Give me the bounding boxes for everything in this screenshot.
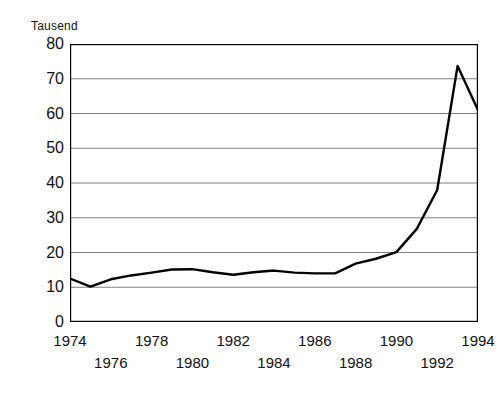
x-tick-label: 1988: [339, 354, 372, 371]
x-tick-label: 1980: [176, 354, 209, 371]
line-chart-svg: [70, 44, 478, 322]
y-tick-label: 40: [24, 175, 64, 191]
y-tick-label: 80: [24, 36, 64, 52]
chart-figure: Tausend 80706050403020100 19741978198219…: [0, 0, 504, 397]
y-tick-label: 50: [24, 140, 64, 156]
y-tick-label: 30: [24, 210, 64, 226]
y-axis-tick-labels: 80706050403020100: [18, 44, 64, 322]
x-tick-label: 1976: [94, 354, 127, 371]
x-tick-label: 1994: [461, 332, 494, 349]
x-tick-label: 1984: [257, 354, 290, 371]
y-tick-label: 20: [24, 245, 64, 261]
y-tick-label: 0: [24, 314, 64, 330]
unit-label: Tausend: [31, 19, 78, 33]
x-tick-label: 1986: [298, 332, 331, 349]
gridlines: [70, 79, 478, 288]
x-tick-label: 1990: [380, 332, 413, 349]
x-axis-tick-labels: 1974197819821986199019941976198019841988…: [70, 328, 478, 388]
x-tick-label: 1974: [53, 332, 86, 349]
x-tick-label: 1982: [217, 332, 250, 349]
x-tick-label: 1992: [421, 354, 454, 371]
x-tick-label: 1978: [135, 332, 168, 349]
data-series-line: [70, 66, 478, 287]
plot-area: [70, 44, 478, 322]
y-tick-label: 10: [24, 279, 64, 295]
y-tick-label: 70: [24, 71, 64, 87]
y-tick-label: 60: [24, 106, 64, 122]
